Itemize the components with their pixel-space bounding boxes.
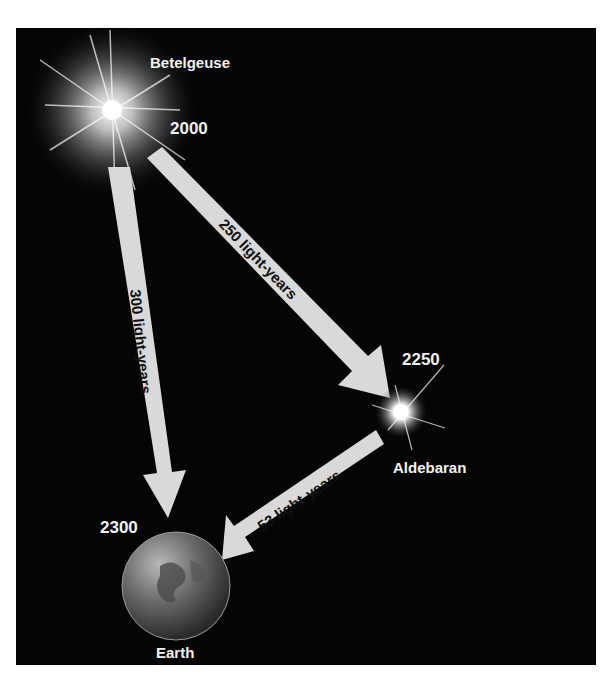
earth-year: 2300	[100, 518, 138, 537]
earth-globe-icon	[122, 532, 230, 640]
betelgeuse-label: Betelgeuse	[150, 54, 230, 71]
arrow-label-53: 53 light-years	[254, 466, 344, 534]
arrow-betelgeuse-to-aldebaran: 250 light-years	[147, 147, 390, 398]
arrow-betelgeuse-to-earth: 300 light-years	[108, 167, 186, 518]
distance-diagram: Betelgeuse 2000 250 light-years 300 ligh…	[0, 0, 610, 677]
arrow-aldebaran-to-earth: 53 light-years	[222, 430, 384, 560]
betelgeuse-year: 2000	[170, 119, 208, 138]
earth-label: Earth	[156, 644, 194, 661]
arrow-label-250: 250 light-years	[216, 215, 301, 302]
aldebaran-year: 2250	[402, 350, 440, 369]
aldebaran-label: Aldebaran	[393, 459, 466, 476]
